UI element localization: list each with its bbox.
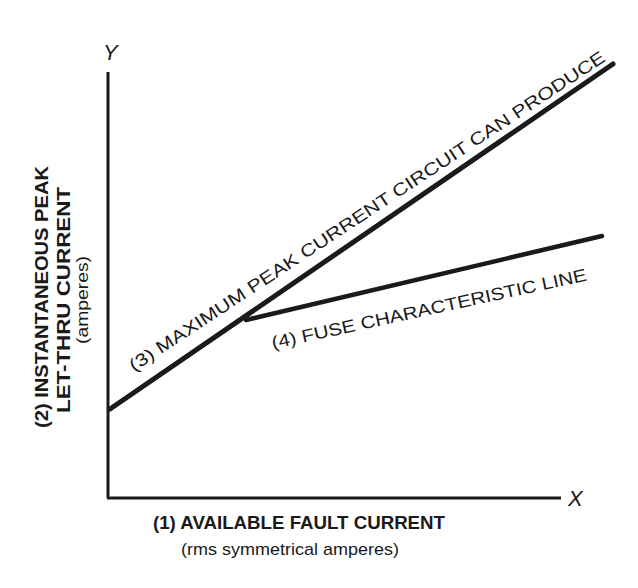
y-axis-label-line1: (2) INSTANTANEOUS PEAK — [31, 166, 52, 428]
x-axis-letter: X — [567, 486, 584, 511]
y-axis-letter: Y — [103, 40, 119, 65]
max-peak-current-line — [110, 64, 613, 409]
y-axis-label-line2: LET-THRU CURRENT — [53, 187, 74, 413]
y-axis-units: (amperes) — [74, 256, 91, 344]
x-axis-label-line1: (1) AVAILABLE FAULT CURRENT — [153, 512, 445, 533]
x-axis-units: (rms symmetrical amperes) — [181, 540, 399, 559]
let-thru-diagram: Y X (3) MAXIMUM PEAK CURRENT CIRCUIT CAN… — [0, 0, 638, 588]
